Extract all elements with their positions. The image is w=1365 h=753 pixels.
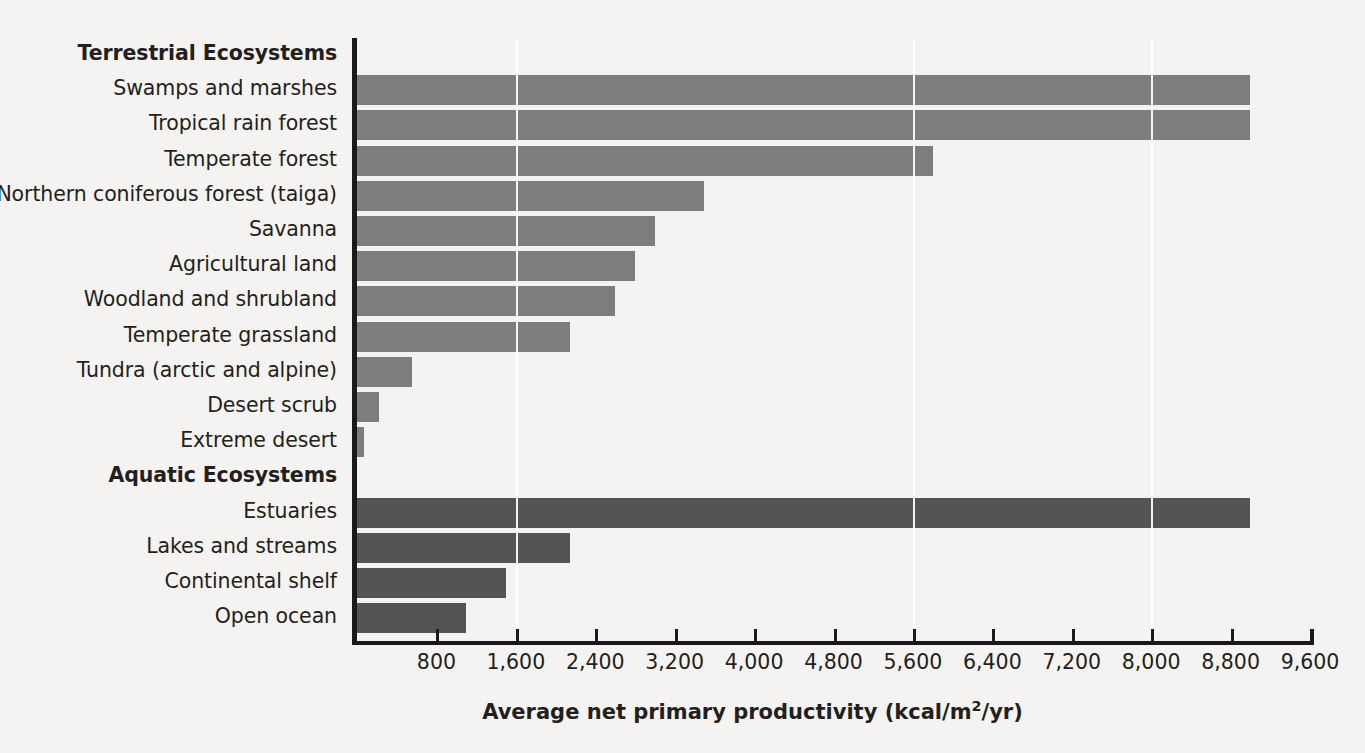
x-tick-1600 — [516, 629, 519, 642]
category-label-tundra-arctic-and-alpine: Tundra (arctic and alpine) — [77, 358, 337, 382]
x-tick-5600 — [913, 629, 916, 642]
x-axis-title: Average net primary productivity (kcal/m… — [0, 700, 1365, 724]
x-tick-label-4000: 4,000 — [725, 650, 784, 674]
x-tick-6400 — [992, 629, 995, 642]
bar-savanna — [357, 216, 655, 246]
x-tick-label-2400: 2,400 — [566, 650, 625, 674]
x-tick-4800 — [834, 629, 837, 642]
category-label-northern-coniferous-forest-taiga: Northern coniferous forest (taiga) — [0, 182, 337, 206]
x-tick-800 — [436, 629, 439, 642]
bar-continental-shelf — [357, 568, 506, 598]
category-label-estuaries: Estuaries — [243, 499, 337, 523]
category-label-desert-scrub: Desert scrub — [207, 393, 337, 417]
x-tick-label-7200: 7,200 — [1042, 650, 1101, 674]
category-label-extreme-desert: Extreme desert — [180, 428, 337, 452]
bar-temperate-grassland — [357, 322, 570, 352]
bar-northern-coniferous-forest-taiga — [357, 181, 704, 211]
bar-tundra-arctic-and-alpine — [357, 357, 412, 387]
x-tick-label-9600: 9,600 — [1281, 650, 1340, 674]
bar-open-ocean — [357, 603, 466, 633]
x-tick-label-8800: 8,800 — [1201, 650, 1260, 674]
bar-estuaries — [357, 498, 1250, 528]
bar-chart: Terrestrial EcosystemsSwamps and marshes… — [0, 0, 1365, 753]
bar-extreme-desert — [357, 427, 364, 457]
x-tick-label-6400: 6,400 — [963, 650, 1022, 674]
category-label-column: Terrestrial EcosystemsSwamps and marshes… — [0, 0, 347, 753]
category-label-open-ocean: Open ocean — [215, 604, 337, 628]
x-axis-endcap — [1310, 629, 1314, 645]
x-tick-8000 — [1151, 629, 1154, 642]
category-label-woodland-and-shrubland: Woodland and shrubland — [84, 287, 337, 311]
category-label-continental-shelf: Continental shelf — [165, 569, 338, 593]
x-tick-label-800: 800 — [417, 650, 456, 674]
bar-woodland-and-shrubland — [357, 286, 615, 316]
x-tick-label-5600: 5,600 — [884, 650, 943, 674]
x-tick-label-8000: 8,000 — [1122, 650, 1181, 674]
bar-lakes-and-streams — [357, 533, 570, 563]
x-tick-2400 — [595, 629, 598, 642]
x-tick-8800 — [1231, 629, 1234, 642]
category-label-temperate-grassland: Temperate grassland — [124, 323, 337, 347]
group-heading-terrestrial-ecosystems: Terrestrial Ecosystems — [78, 41, 338, 65]
x-tick-7200 — [1072, 629, 1075, 642]
category-label-agricultural-land: Agricultural land — [169, 252, 337, 276]
category-label-swamps-and-marshes: Swamps and marshes — [113, 76, 337, 100]
bar-temperate-forest — [357, 146, 933, 176]
x-tick-label-4800: 4,800 — [804, 650, 863, 674]
group-heading-aquatic-ecosystems: Aquatic Ecosystems — [108, 463, 337, 487]
category-label-savanna: Savanna — [249, 217, 337, 241]
x-axis-title-after: /yr) — [982, 700, 1023, 724]
x-axis-title-superscript: 2 — [972, 698, 982, 714]
category-label-tropical-rain-forest: Tropical rain forest — [149, 111, 337, 135]
category-label-temperate-forest: Temperate forest — [164, 147, 337, 171]
plot-area — [357, 40, 1317, 638]
bar-swamps-and-marshes — [357, 75, 1250, 105]
x-axis-title-before: Average net primary productivity (kcal/m — [482, 700, 971, 724]
x-tick-label-3200: 3,200 — [645, 650, 704, 674]
x-tick-4000 — [754, 629, 757, 642]
bar-desert-scrub — [357, 392, 379, 422]
x-tick-label-1600: 1,600 — [486, 650, 545, 674]
y-axis-line — [352, 38, 357, 643]
category-label-lakes-and-streams: Lakes and streams — [146, 534, 337, 558]
bar-tropical-rain-forest — [357, 110, 1250, 140]
x-tick-3200 — [675, 629, 678, 642]
bar-agricultural-land — [357, 251, 635, 281]
